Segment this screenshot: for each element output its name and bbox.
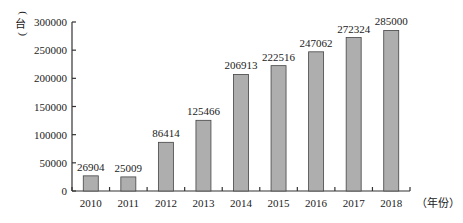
bar-2010 [83, 176, 98, 191]
bar-2012 [158, 142, 173, 191]
y-axis-unit-label: (台) [15, 11, 31, 36]
x-unit-text: （年份） [416, 196, 460, 209]
bar-value-label: 247062 [300, 37, 333, 49]
bar-2011 [121, 177, 136, 191]
bar-value-label: 206913 [225, 59, 259, 71]
y-tick-label: 50000 [40, 157, 68, 169]
x-tick-label: 2013 [192, 197, 215, 209]
x-tick-label: 2017 [343, 197, 366, 209]
bar-value-label: 272324 [337, 23, 371, 35]
bar-2015 [271, 66, 286, 191]
x-tick-label: 2015 [268, 197, 291, 209]
x-tick-label: 2011 [118, 197, 140, 209]
bar-value-label: 285000 [375, 15, 409, 27]
x-tick-label: 2010 [80, 197, 103, 209]
y-axis: 050000100000150000200000250000300000 [34, 16, 76, 197]
y-tick-label: 200000 [34, 72, 68, 84]
x-tick-label: 2012 [155, 197, 177, 209]
bar-value-label: 25009 [115, 162, 143, 174]
bar-2018 [384, 30, 399, 191]
y-tick-label: 300000 [34, 16, 68, 28]
x-tick-label: 2014 [230, 197, 253, 209]
bar-chart: (台) 050000100000150000200000250000300000… [0, 0, 463, 223]
y-tick-label: 250000 [34, 44, 68, 56]
bar-2013 [196, 120, 211, 191]
bar-2016 [309, 52, 324, 191]
x-axis-unit-label: （年份） [416, 196, 460, 209]
bar-value-label: 222516 [262, 51, 296, 63]
bars: 2690425009864141254662069132225162470622… [77, 15, 408, 191]
svg-text:): ) [17, 32, 30, 36]
bar-value-label: 125466 [187, 105, 221, 117]
svg-text:(: ( [17, 11, 30, 15]
bar-value-label: 86414 [152, 127, 180, 139]
y-tick-label: 100000 [34, 129, 68, 141]
bar-2017 [346, 38, 361, 191]
x-tick-label: 2018 [380, 197, 403, 209]
bar-2014 [234, 74, 249, 191]
y-tick-label: 150000 [34, 101, 68, 113]
y-tick-label: 0 [62, 185, 68, 197]
y-unit-text: 台 [15, 17, 26, 30]
x-tick-label: 2016 [305, 197, 328, 209]
bar-value-label: 26904 [77, 161, 105, 173]
